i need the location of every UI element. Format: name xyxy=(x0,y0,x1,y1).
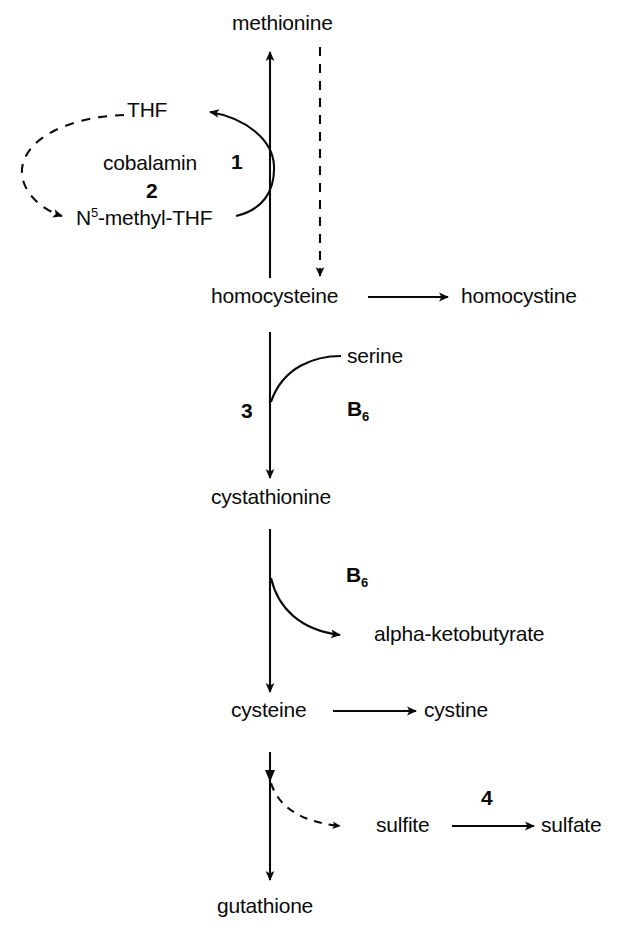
pathway-arrow-layer xyxy=(0,0,629,950)
label-b6-lower: B6 xyxy=(346,564,368,585)
label-cystine: cystine xyxy=(424,699,488,720)
arrow-cysteine-to-gutathione xyxy=(265,752,275,880)
n5-suffix: -methyl-THF xyxy=(98,206,212,229)
b6-upper-letter: B xyxy=(347,397,362,420)
label-homocystine: homocystine xyxy=(461,285,577,306)
label-gutathione: gutathione xyxy=(217,895,313,916)
label-methionine: methionine xyxy=(232,12,333,33)
label-enzyme-2: 2 xyxy=(146,180,157,201)
label-b6-upper: B6 xyxy=(347,398,369,419)
pathway-diagram: methionine THF cobalamin 1 2 N5-methyl-T… xyxy=(0,0,629,950)
arrow-cysteine-to-sulfite xyxy=(271,783,340,826)
b6-lower-letter: B xyxy=(346,563,361,586)
label-enzyme-1: 1 xyxy=(231,151,242,172)
label-sulfite: sulfite xyxy=(376,814,429,835)
label-alpha-ketobutyrate: alpha-ketobutyrate xyxy=(374,623,544,644)
label-cysteine: cysteine xyxy=(231,699,306,720)
label-thf: THF xyxy=(127,99,167,120)
label-cystathionine: cystathionine xyxy=(211,486,331,507)
label-enzyme-3: 3 xyxy=(241,400,252,421)
arrow-cystathionine-to-alpha-ketobutyrate xyxy=(271,578,340,635)
b6-lower-subscript: 6 xyxy=(361,575,368,590)
label-serine: serine xyxy=(347,345,403,366)
n5-prefix: N xyxy=(76,206,91,229)
label-n5-methyl-thf: N5-methyl-THF xyxy=(76,207,212,228)
label-sulfate: sulfate xyxy=(541,814,601,835)
n5-superscript: 5 xyxy=(91,205,98,220)
b6-upper-subscript: 6 xyxy=(362,409,369,424)
arrow-serine-into-pathway xyxy=(271,356,341,402)
label-cobalamin: cobalamin xyxy=(103,152,197,173)
label-enzyme-4: 4 xyxy=(481,787,492,808)
label-homocysteine: homocysteine xyxy=(211,285,338,306)
